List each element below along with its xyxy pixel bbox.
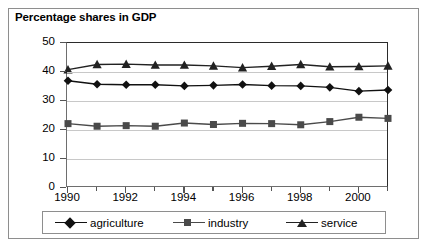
y-axis-tick-label: 20	[9, 123, 55, 134]
data-point	[180, 82, 189, 91]
x-axis-tick-label: 1996	[220, 191, 264, 203]
data-point	[210, 121, 217, 128]
x-axis-tick-mark	[387, 187, 388, 191]
legend-marker-triangle-icon	[286, 217, 318, 229]
series-layer	[67, 43, 389, 188]
x-axis-tick-mark	[329, 187, 330, 191]
data-point	[122, 80, 131, 89]
data-point	[239, 120, 246, 127]
data-point	[267, 81, 276, 90]
x-axis-tick-mark	[271, 187, 272, 191]
series-line	[68, 64, 388, 70]
series-industry	[65, 114, 392, 130]
y-axis-tick-mark	[60, 42, 66, 43]
legend-entry-industry[interactable]: industry	[173, 212, 248, 233]
data-point	[94, 123, 101, 130]
y-axis-tick-label: 10	[9, 152, 55, 163]
series-line	[68, 81, 388, 91]
data-point	[152, 123, 159, 130]
legend-label: service	[321, 217, 357, 229]
x-axis-tick-mark	[154, 187, 155, 191]
data-point	[384, 86, 393, 95]
gridline	[67, 72, 387, 73]
gridline	[67, 130, 387, 131]
x-axis-tick-mark	[212, 187, 213, 191]
chart-legend: agricultureindustryservice	[42, 211, 386, 234]
legend-label: agriculture	[90, 217, 144, 229]
y-axis-tick-label: 30	[9, 94, 55, 105]
data-point	[238, 80, 247, 89]
y-axis-tick-label: 50	[9, 36, 55, 47]
series-line	[68, 117, 388, 126]
y-axis-tick-mark	[60, 158, 66, 159]
gridline	[67, 159, 387, 160]
data-point	[326, 118, 333, 125]
plot-area	[66, 42, 388, 187]
data-point	[151, 80, 160, 89]
data-point	[297, 121, 304, 128]
chart-figure: Percentage shares in GDP agricultureindu…	[8, 8, 419, 239]
y-axis-tick-mark	[60, 187, 66, 188]
x-axis-tick-label: 2000	[336, 191, 380, 203]
x-axis-tick-mark	[96, 187, 97, 191]
gridline	[67, 101, 387, 102]
x-axis-tick-label: 1990	[45, 191, 89, 203]
y-axis-tick-mark	[60, 71, 66, 72]
y-axis-tick-mark	[60, 129, 66, 130]
legend-label: industry	[208, 217, 248, 229]
data-point	[326, 83, 335, 92]
legend-entry-service[interactable]: service	[286, 212, 357, 233]
data-point	[64, 76, 73, 85]
y-axis-tick-label: 40	[9, 65, 55, 76]
chart-title: Percentage shares in GDP	[15, 11, 215, 24]
data-point	[209, 81, 218, 90]
series-agriculture	[64, 76, 393, 95]
legend-entry-agriculture[interactable]: agriculture	[55, 212, 144, 233]
data-point	[355, 114, 362, 121]
data-point	[65, 120, 72, 127]
data-point	[123, 122, 130, 129]
data-point	[181, 120, 188, 127]
legend-marker-diamond-icon	[55, 217, 87, 229]
data-point	[355, 87, 364, 96]
x-axis-tick-label: 1998	[278, 191, 322, 203]
data-point	[385, 115, 392, 122]
data-point	[296, 82, 305, 91]
data-point	[268, 120, 275, 127]
y-axis-tick-mark	[60, 100, 66, 101]
data-point	[93, 80, 102, 89]
x-axis-tick-label: 1992	[103, 191, 147, 203]
x-axis-tick-label: 1994	[161, 191, 205, 203]
legend-marker-square-icon	[173, 217, 205, 229]
